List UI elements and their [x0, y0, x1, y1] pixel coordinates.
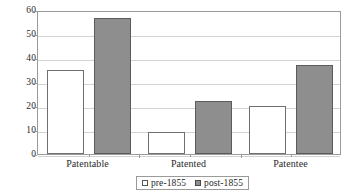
- bar-patentable-pre-1855: [47, 70, 84, 154]
- white-square-swatch: [142, 180, 148, 186]
- gridline: [38, 156, 340, 157]
- x-axis-tick-mark: [89, 154, 90, 157]
- bar-patented-post-1855: [195, 101, 232, 154]
- y-axis-tick-mark: [32, 155, 37, 156]
- gridline: [38, 36, 340, 37]
- gray-square-swatch: [195, 180, 201, 186]
- gridline: [38, 60, 340, 61]
- x-axis-label-patentee: Patentee: [240, 158, 341, 170]
- bar-patented-pre-1855: [148, 132, 185, 154]
- x-axis-tick-mark: [291, 154, 292, 157]
- x-axis-tick-mark: [190, 154, 191, 157]
- bar-patentee-post-1855: [296, 65, 333, 154]
- bar-chart: 6050403020100 PatentablePatentedPatentee…: [0, 0, 354, 196]
- legend-entry-pre-1855[interactable]: pre-1855: [142, 178, 186, 188]
- legend-entry-post-1855[interactable]: post-1855: [195, 178, 243, 188]
- bar-patentee-pre-1855: [249, 106, 286, 154]
- plot-area: [37, 11, 341, 155]
- x-axis-label-patented: Patented: [138, 158, 239, 170]
- bar-patentable-post-1855: [94, 18, 131, 154]
- x-axis-label-patentable: Patentable: [37, 158, 138, 170]
- legend-label: post-1855: [204, 178, 243, 188]
- legend: pre-1855post-1855: [136, 176, 249, 190]
- legend-label: pre-1855: [151, 178, 186, 188]
